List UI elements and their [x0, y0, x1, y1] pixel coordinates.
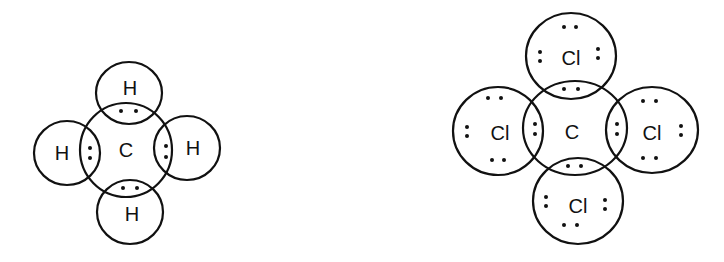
chlorine-label-left: Cl	[491, 122, 510, 144]
hydrogen-label-left: H	[55, 142, 69, 164]
ccl4-diagram: C Cl Cl Cl Cl	[453, 13, 698, 244]
hydrogen-label-bottom: H	[125, 203, 139, 225]
lewis-diagrams: C H H H H C Cl Cl Cl Cl	[0, 0, 724, 262]
methane-diagram: C H H H H	[34, 62, 220, 244]
chlorine-label-bottom: Cl	[569, 195, 588, 217]
hydrogen-label-top: H	[123, 77, 137, 99]
carbon-label: C	[119, 139, 133, 161]
carbon-label: C	[565, 121, 579, 143]
chlorine-label-top: Cl	[562, 47, 581, 69]
hydrogen-label-right: H	[186, 137, 200, 159]
chlorine-label-right: Cl	[643, 122, 662, 144]
